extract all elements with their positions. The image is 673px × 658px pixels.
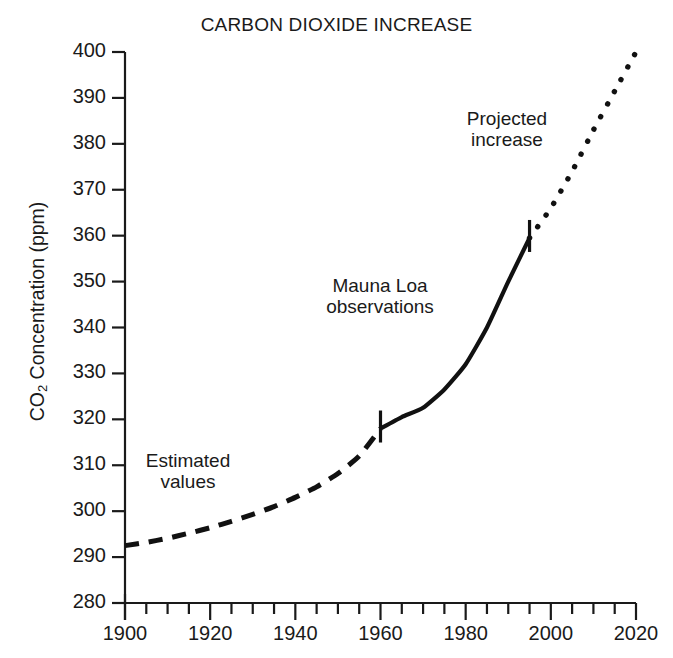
x-tick-label-2020: 2020 [596,622,673,645]
y-tick-label-390: 390 [50,85,106,108]
x-tick-label-1940: 1940 [255,622,335,645]
y-tick-label-310: 310 [50,452,106,475]
y-tick-label-380: 380 [50,131,106,154]
co2-chart: CARBON DIOXIDE INCREASE CO2 Concentratio… [0,0,673,658]
x-tick-label-1920: 1920 [170,622,250,645]
y-tick-label-340: 340 [50,315,106,338]
y-tick-label-360: 360 [50,223,106,246]
y-tick-label-320: 320 [50,406,106,429]
annotation-mauna-loa-observations: Mauna Loa observations [295,275,465,318]
segment-markers [381,220,530,443]
y-tick-label-290: 290 [50,544,106,567]
y-axis-ticks [112,52,125,603]
x-tick-label-2000: 2000 [511,622,591,645]
x-axis-ticks [125,594,636,620]
series-line-1 [381,238,530,429]
x-tick-label-1980: 1980 [426,622,506,645]
annotation-projected-increase: Projected increase [432,108,582,151]
x-tick-label-1900: 1900 [85,622,165,645]
y-tick-label-280: 280 [50,590,106,613]
annotation-estimated-values: Estimated values [118,450,258,493]
y-tick-label-330: 330 [50,360,106,383]
x-tick-label-1960: 1960 [341,622,421,645]
y-tick-label-370: 370 [50,177,106,200]
y-tick-label-350: 350 [50,269,106,292]
y-tick-label-300: 300 [50,498,106,521]
y-tick-label-400: 400 [50,39,106,62]
